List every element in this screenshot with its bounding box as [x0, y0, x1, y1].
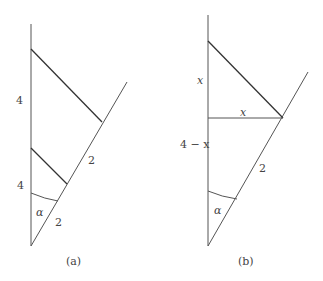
slant-line-b: [208, 72, 308, 246]
angle-arc-a: [31, 193, 58, 201]
panel-a: 4 4 2 2 α (a): [16, 24, 127, 268]
label-upper-vertical-b: x: [197, 74, 204, 87]
label-slant-upper-a: 2: [88, 154, 95, 167]
angle-arc-b: [208, 191, 237, 199]
caption-b: (b): [238, 255, 254, 268]
label-lower-vertical-a: 4: [17, 179, 24, 192]
label-lower-vertical-b: 4 − x: [180, 138, 210, 151]
label-slant-lower-a: 2: [55, 216, 62, 229]
label-slant-b: 2: [259, 162, 266, 175]
upper-segment-a: [31, 49, 102, 122]
caption-a: (a): [66, 255, 81, 268]
lower-segment-a: [31, 148, 67, 184]
panel-b: x x 4 − x 2 α (b): [180, 15, 308, 268]
label-angle-b: α: [214, 204, 222, 217]
label-horizontal-b: x: [240, 106, 247, 119]
label-upper-vertical-a: 4: [16, 94, 23, 107]
slant-line-a: [31, 82, 127, 246]
diagram-canvas: 4 4 2 2 α (a) x x 4 − x 2 α (b): [0, 0, 323, 281]
label-angle-a: α: [36, 206, 44, 219]
